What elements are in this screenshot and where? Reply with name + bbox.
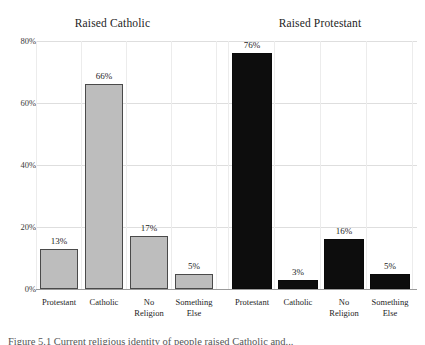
gridline-vertical bbox=[228, 41, 229, 289]
x-axis-category-label-line: Else bbox=[164, 308, 224, 319]
gridline-vertical bbox=[320, 41, 321, 289]
gridline-vertical bbox=[366, 41, 367, 289]
gridline-vertical bbox=[36, 41, 37, 289]
y-axis-tick-label: 60% bbox=[0, 98, 36, 108]
bar-value-label: 5% bbox=[360, 261, 420, 271]
x-axis-category-label-line: Something bbox=[359, 297, 421, 308]
bar-value-label: 16% bbox=[314, 226, 374, 236]
gridline-vertical bbox=[274, 41, 275, 289]
plot-area: 0%20%40%60%80%13%Protestant66%Catholic17… bbox=[0, 0, 425, 345]
bar-no-religion[interactable] bbox=[324, 239, 364, 289]
bar-catholic[interactable] bbox=[278, 280, 318, 289]
bar-value-label: 66% bbox=[75, 71, 133, 81]
bar-protestant[interactable] bbox=[232, 53, 272, 289]
x-axis-category-label: SomethingElse bbox=[359, 297, 421, 318]
bar-value-label: 3% bbox=[268, 267, 328, 277]
bar-protestant[interactable] bbox=[40, 249, 78, 289]
bar-something-else[interactable] bbox=[175, 274, 213, 290]
bar-catholic[interactable] bbox=[85, 84, 123, 289]
figure-bar-chart: Raised Catholic Raised Protestant 0%20%4… bbox=[0, 0, 425, 345]
x-axis-category-label: SomethingElse bbox=[164, 297, 224, 318]
x-axis-category-label-line: Else bbox=[359, 308, 421, 319]
bar-something-else[interactable] bbox=[370, 274, 410, 290]
gridline-vertical bbox=[412, 41, 413, 289]
bar-value-label: 17% bbox=[120, 223, 178, 233]
gridline-vertical bbox=[171, 41, 172, 289]
bar-value-label: 5% bbox=[165, 261, 223, 271]
bar-value-label: 76% bbox=[222, 40, 282, 50]
x-axis-baseline bbox=[36, 289, 417, 290]
figure-caption: Figure 5.1 Current religious identity of… bbox=[8, 336, 418, 345]
y-axis-tick-label: 40% bbox=[0, 160, 36, 170]
gridline-vertical bbox=[126, 41, 127, 289]
bar-no-religion[interactable] bbox=[130, 236, 168, 289]
y-axis-tick-label: 80% bbox=[0, 36, 36, 46]
x-axis-category-label-line: Something bbox=[164, 297, 224, 308]
y-axis-tick-label: 0% bbox=[0, 284, 36, 294]
y-axis-tick-label: 20% bbox=[0, 222, 36, 232]
gridline-vertical bbox=[216, 41, 217, 289]
bar-value-label: 13% bbox=[30, 236, 88, 246]
